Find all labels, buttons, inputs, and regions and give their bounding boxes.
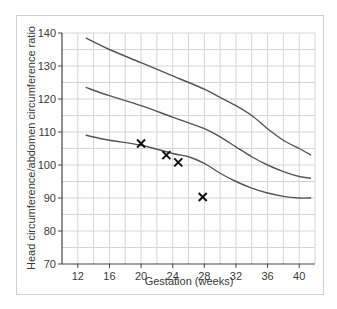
y-tick-label: 120 bbox=[38, 93, 56, 105]
x-tick-label: 16 bbox=[103, 270, 115, 282]
y-tick-label: 100 bbox=[38, 159, 56, 171]
y-tick-label: 70 bbox=[44, 258, 56, 270]
reference-curve bbox=[86, 38, 311, 155]
axes bbox=[58, 33, 315, 268]
y-tick-label: 90 bbox=[44, 192, 56, 204]
reference-curves bbox=[86, 38, 311, 198]
y-tick-label: 140 bbox=[38, 27, 56, 39]
y-tick-label: 80 bbox=[44, 225, 56, 237]
reference-curve bbox=[86, 135, 311, 198]
x-axis-title: Gestation (weeks) bbox=[145, 275, 234, 287]
x-tick-label: 12 bbox=[72, 270, 84, 282]
x-marker bbox=[199, 193, 207, 201]
x-tick-label: 40 bbox=[293, 270, 305, 282]
grid-lines bbox=[62, 33, 315, 264]
x-tick-label: 36 bbox=[261, 270, 273, 282]
chart: 1216202428323640708090100110120130140 Ge… bbox=[0, 0, 337, 309]
y-tick-label: 130 bbox=[38, 60, 56, 72]
y-tick-label: 110 bbox=[38, 126, 56, 138]
y-axis-title: Head circumference/abdomen circumference… bbox=[25, 26, 37, 270]
